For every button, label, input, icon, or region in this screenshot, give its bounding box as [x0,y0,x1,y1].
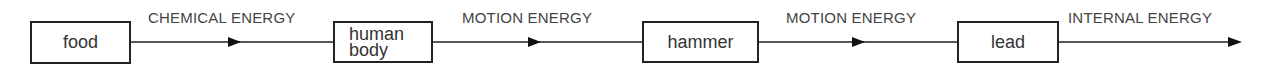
node-food-label: food [63,32,98,53]
arrowhead-icon [1228,37,1242,47]
arrowhead-icon [228,37,241,47]
node-lead: lead [957,21,1059,63]
arrowhead-icon [852,37,865,47]
edge-label-chemical-energy: CHEMICAL ENERGY [148,9,295,26]
node-food: food [30,21,131,64]
node-human-body: human body [333,21,433,63]
edge-label-motion-energy-1: MOTION ENERGY [462,9,592,26]
edge-label-internal-energy: INTERNAL ENERGY [1068,9,1212,26]
node-human-body-label-line2: body [349,42,388,58]
node-hammer-label: hammer [667,32,733,53]
edge-label-motion-energy-2: MOTION ENERGY [786,9,916,26]
arrowhead-icon [528,37,541,47]
node-lead-label: lead [991,32,1025,53]
node-hammer: hammer [642,21,759,63]
